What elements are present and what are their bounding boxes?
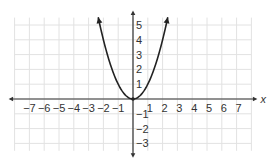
x-tick-label: −4 [68,102,81,114]
x-tick-label: 7 [236,102,242,114]
x-tick-label: −1 [112,102,125,114]
x-tick-label: 2 [162,102,168,114]
x-tick-label: −6 [38,102,51,114]
y-tick-label: −2 [136,123,149,135]
x-tick-label: 3 [176,102,182,114]
y-tick-label: 5 [136,19,142,31]
y-tick-label: 1 [136,78,142,90]
vertex-point [131,97,135,101]
x-tick-label: −2 [97,102,110,114]
x-tick-label: −5 [53,102,66,114]
y-tick-label: −1 [136,108,149,120]
y-tick-label: −3 [136,137,149,149]
x-tick-label: −7 [23,102,36,114]
y-tick-label: 4 [136,34,142,46]
x-tick-label: 6 [221,102,227,114]
x-tick-label: 5 [206,102,212,114]
parabola-chart: x −7−6−5−4−3−2−1123456754321−1−2−3 [0,0,277,159]
x-tick-label: −3 [82,102,95,114]
x-axis-label: x [259,93,266,105]
y-tick-label: 3 [136,49,142,61]
x-tick-label: 4 [191,102,197,114]
y-tick-label: 2 [136,63,142,75]
